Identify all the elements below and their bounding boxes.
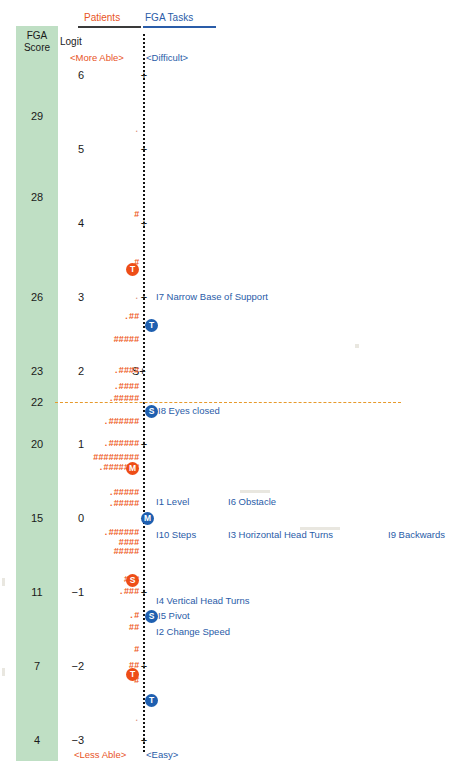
- logit-label-neg1: −1: [58, 586, 84, 598]
- patients-column-title: Patients: [84, 12, 120, 23]
- person-stat-marker-t: T: [126, 668, 139, 681]
- logit-label-6: 6: [58, 69, 84, 81]
- person-hash-row: .######: [103, 418, 139, 427]
- item-stat-marker-m: M: [141, 512, 154, 525]
- person-hash-row: ##: [129, 624, 139, 633]
- person-hash-row: .#: [129, 612, 139, 621]
- scan-artifact: [2, 668, 5, 676]
- axis-tick-5: +: [138, 144, 150, 154]
- fga-tasks-column-title: FGA Tasks: [145, 12, 193, 23]
- axis-tick-neg1: +: [138, 587, 150, 597]
- item-label-i10: I10 Steps: [156, 529, 196, 540]
- person-hash-row: .######: [103, 529, 139, 538]
- scan-artifact: [2, 578, 5, 586]
- easy-anchor-label: <Easy>: [146, 749, 178, 760]
- item-label-i6: I6 Obstacle: [228, 496, 276, 507]
- fga-tasks-title-underline: [143, 26, 216, 28]
- logit-label-3: 3: [58, 291, 84, 303]
- axis-tick-1: +: [138, 439, 150, 449]
- logit-label-1: 1: [58, 438, 84, 450]
- person-hash-row: .: [134, 293, 139, 302]
- item-label-i9: I9 Backwards: [388, 529, 445, 540]
- item-label-i3: I3 Horizontal Head Turns: [228, 529, 333, 540]
- item-label-i8: I8 Eyes closed: [158, 405, 220, 416]
- person-hash-row: .: [134, 126, 139, 135]
- item-stat-marker-s: S: [145, 405, 158, 418]
- person-hash-row: .######: [103, 440, 139, 449]
- item-label-i5: I5 Pivot: [158, 610, 190, 621]
- fga-score-value-28: 28: [16, 191, 58, 203]
- fga-score-value-4: 4: [16, 734, 58, 746]
- item-label-i2: I2 Change Speed: [156, 626, 230, 637]
- axis-tick-6: +: [138, 70, 150, 80]
- person-hash-row: #: [134, 646, 139, 655]
- logit-column-header: Logit: [60, 36, 100, 47]
- logit-label-4: 4: [58, 217, 84, 229]
- person-hash-row: .#####: [108, 489, 139, 498]
- person-hash-row: #####: [113, 336, 139, 345]
- person-hash-row: #: [134, 211, 139, 220]
- fga-22-cut-line: [55, 402, 401, 403]
- person-hash-row: .###: [119, 588, 139, 597]
- fga-score-value-23: 23: [16, 365, 58, 377]
- scan-artifact: [240, 490, 270, 493]
- person-hash-row: .#####: [108, 500, 139, 509]
- logit-label-5: 5: [58, 143, 84, 155]
- scan-artifact: [300, 527, 340, 530]
- logit-label-0: 0: [58, 512, 84, 524]
- person-hash-row: #####: [113, 548, 139, 557]
- fga-score-band: [16, 26, 58, 761]
- item-label-i4: I4 Vertical Head Turns: [156, 595, 249, 606]
- fga-score-value-15: 15: [16, 512, 58, 524]
- logit-label-neg3: −3: [58, 734, 84, 746]
- fga-score-value-20: 20: [16, 438, 58, 450]
- item-stat-marker-t: T: [145, 694, 158, 707]
- central-dotted-axis: [143, 34, 145, 752]
- person-hash-row: .####: [113, 383, 139, 392]
- person-stat-marker-s: S: [126, 574, 139, 587]
- person-stat-marker-m: M: [126, 462, 139, 475]
- axis-tick-neg3: +: [138, 735, 150, 745]
- fga-score-header-line1: FGA: [16, 30, 58, 42]
- fga-score-value-11: 11: [16, 586, 58, 598]
- wright-map-figure: FGA Score Logit Patients FGA Tasks <More…: [0, 0, 461, 761]
- logit-label-2: 2: [58, 365, 84, 377]
- axis-tick-3: +: [138, 292, 150, 302]
- difficult-anchor-label: <Difficult>: [146, 52, 188, 63]
- item-stat-marker-s: S: [145, 610, 158, 623]
- fga-score-value-29: 29: [16, 110, 58, 122]
- fga-score-value-22: 22: [16, 396, 58, 408]
- fga-score-value-26: 26: [16, 291, 58, 303]
- patients-title-underline: [78, 26, 141, 28]
- person-stat-marker-t: T: [126, 263, 139, 276]
- scan-artifact: [355, 344, 359, 348]
- item-stat-marker-t: T: [145, 319, 158, 332]
- axis-tick-neg2: +: [138, 661, 150, 671]
- more-able-anchor-label: <More Able>: [70, 52, 124, 63]
- less-able-anchor-label: <Less Able>: [74, 749, 126, 760]
- person-hash-row: .: [134, 715, 139, 724]
- axis-tick-4: +: [138, 218, 150, 228]
- item-label-i1: I1 Level: [156, 496, 189, 507]
- fga-score-value-7: 7: [16, 660, 58, 672]
- fga-score-column-header: FGA Score: [16, 30, 58, 54]
- person-hash-row: .####: [113, 367, 139, 376]
- person-hash-row: .##: [124, 313, 139, 322]
- item-label-i7: I7 Narrow Base of Support: [156, 291, 268, 302]
- fga-score-header-line2: Score: [16, 42, 58, 54]
- logit-label-neg2: −2: [58, 660, 84, 672]
